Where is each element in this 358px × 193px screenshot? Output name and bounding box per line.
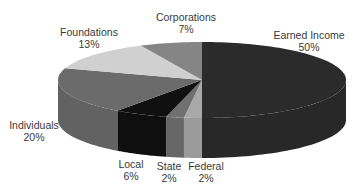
- label-individuals-value: 20%: [6, 131, 62, 143]
- label-local-value: 6%: [114, 170, 148, 182]
- label-corporations-name: Corporations: [148, 11, 224, 23]
- label-individuals: Individuals 20%: [6, 119, 62, 143]
- label-local: Local 6%: [114, 158, 148, 182]
- label-foundations-name: Foundations: [54, 26, 124, 38]
- label-individuals-name: Individuals: [6, 119, 62, 131]
- label-state-name: State: [152, 160, 186, 172]
- pie-top: [58, 42, 346, 118]
- label-corporations-value: 7%: [148, 23, 224, 35]
- label-earned-income-value: 50%: [265, 41, 353, 53]
- label-local-name: Local: [114, 158, 148, 170]
- label-earned-income: Earned Income 50%: [265, 29, 353, 53]
- label-state: State 2%: [152, 160, 186, 184]
- side-local: [117, 111, 166, 157]
- label-state-value: 2%: [152, 172, 186, 184]
- label-corporations: Corporations 7%: [148, 11, 224, 35]
- side-state: [166, 117, 184, 158]
- label-foundations-value: 13%: [54, 38, 124, 50]
- label-federal: Federal 2%: [184, 160, 228, 184]
- label-foundations: Foundations 13%: [54, 26, 124, 50]
- label-federal-value: 2%: [184, 172, 228, 184]
- label-earned-income-name: Earned Income: [265, 29, 353, 41]
- side-federal: [184, 118, 202, 158]
- label-federal-name: Federal: [184, 160, 228, 172]
